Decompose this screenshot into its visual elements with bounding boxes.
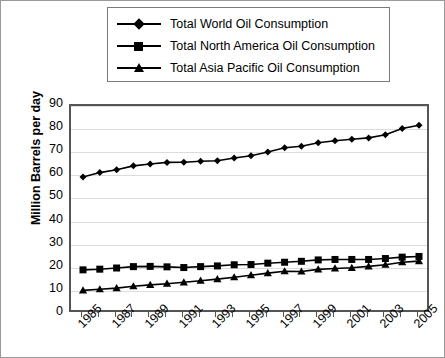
- x-axis-tick-mark: [266, 312, 267, 317]
- x-axis-tick-label: 1985: [75, 301, 105, 331]
- x-axis-tick-label: 2001: [344, 301, 374, 331]
- x-axis-tick-mark: [131, 312, 132, 317]
- x-axis-tick-label: 1999: [310, 301, 340, 331]
- x-axis-tick-label: 1987: [109, 301, 139, 331]
- x-axis-tick-label: 1997: [277, 301, 307, 331]
- x-axis-tick-label: 1989: [142, 301, 172, 331]
- x-axis-tick-mark: [400, 312, 401, 317]
- x-axis-tick-mark: [232, 312, 233, 317]
- x-axis-tick-label: 1995: [243, 301, 273, 331]
- chart-figure: Total World Oil Consumption Total North …: [0, 0, 445, 358]
- x-axis-tick-label: 1991: [176, 301, 206, 331]
- x-axis-tick-label: 2005: [411, 301, 441, 331]
- x-axis-tick-label: 2003: [377, 301, 407, 331]
- x-axis-tick-mark: [333, 312, 334, 317]
- x-axis-tick-labels: 1985198719891991199319951997199920012003…: [1, 1, 445, 358]
- x-axis-tick-mark: [299, 312, 300, 317]
- x-axis-tick-mark: [98, 312, 99, 317]
- x-axis-tick-mark: [165, 312, 166, 317]
- x-axis-tick-mark: [199, 312, 200, 317]
- x-axis-tick-label: 1993: [209, 301, 239, 331]
- x-axis-tick-mark: [367, 312, 368, 317]
